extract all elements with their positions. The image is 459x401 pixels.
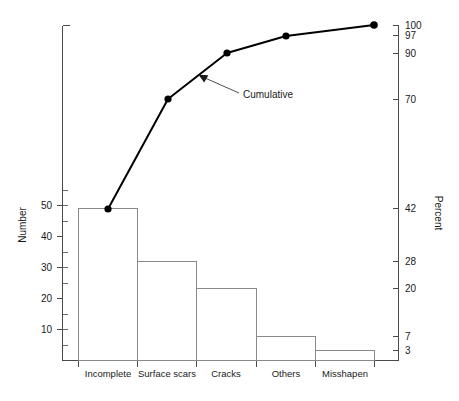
category-label-surface-scars: Surface scars [138,368,196,379]
bar-series [79,209,375,361]
right-tick-label-7: 7 [405,331,411,342]
cumulative-point-4 [282,32,289,39]
bar-others [257,337,316,361]
bar-surface-scars [138,262,197,361]
category-label-misshapen: Misshapen [322,368,368,379]
right-tick-label-42: 42 [405,203,417,214]
cumulative-point-5 [370,21,378,29]
cumulative-annotation: Cumulative [199,75,294,100]
right-tick-label-97: 97 [405,30,417,41]
bar-incomplete [79,209,138,361]
bar-cracks [197,289,257,361]
category-label-others: Others [272,368,301,379]
left-tick-label-50: 50 [41,200,53,211]
left-tick-label-20: 20 [41,293,53,304]
bottom-axis: Incomplete Surface scars Cracks Others M… [63,361,399,380]
category-label-incomplete: Incomplete [85,368,131,379]
left-axis-title: Number [17,207,28,243]
right-axis-title: Percent [433,196,444,231]
cumulative-annotation-label: Cumulative [243,89,293,100]
right-tick-label-3: 3 [405,345,411,356]
cumulative-leader-line [205,78,239,93]
right-tick-label-28: 28 [405,256,417,267]
left-tick-label-30: 30 [41,262,53,273]
left-axis: 50 40 30 20 10 Number [17,26,70,361]
left-tick-label-40: 40 [41,231,53,242]
cumulative-point-2 [164,95,171,102]
cumulative-point-3 [223,49,230,56]
right-axis: 100 97 90 70 42 28 20 7 3 Percent [393,20,445,361]
cumulative-point-1 [104,205,111,212]
cumulative-series [104,21,377,212]
pareto-chart-canvas: 50 40 30 20 10 Number Incomplete Surface… [0,0,459,401]
cumulative-line [108,25,374,209]
pareto-chart: 50 40 30 20 10 Number Incomplete Surface… [0,0,459,401]
bar-misshapen [316,351,375,361]
right-tick-label-20: 20 [405,283,417,294]
right-tick-label-90: 90 [405,48,417,59]
category-label-cracks: Cracks [211,368,241,379]
right-tick-label-70: 70 [405,94,417,105]
left-tick-label-10: 10 [41,324,53,335]
